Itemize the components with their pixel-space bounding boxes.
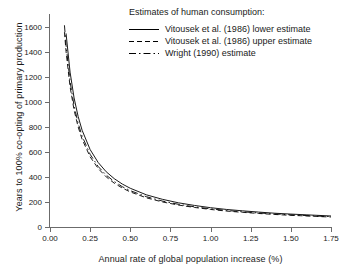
x-tick-label: 1.75 (323, 234, 339, 243)
y-tick-label: 800 (29, 122, 42, 131)
legend-label: Wright (1990) estimate (165, 48, 256, 58)
y-tick-label: 200 (29, 197, 42, 206)
legend-line-swatch (129, 37, 159, 46)
series-line (66, 33, 331, 216)
y-tick-label: 400 (29, 172, 42, 181)
x-axis-line (49, 227, 331, 228)
y-tick-label: 1000 (24, 97, 42, 106)
legend-entry: Wright (1990) estimate (129, 48, 312, 58)
legend-entry: Vitousek et al. (1986) lower estimate (129, 24, 312, 34)
y-tick-label: 1200 (24, 72, 42, 81)
legend-label: Vitousek et al. (1986) lower estimate (165, 24, 310, 34)
x-tick-label: 1.25 (243, 234, 259, 243)
legend: Estimates of human consumption: Vitousek… (129, 7, 312, 60)
legend-title: Estimates of human consumption: (129, 7, 312, 17)
legend-entries: Vitousek et al. (1986) lower estimateVit… (129, 24, 312, 58)
y-tick-label: 0 (38, 223, 42, 232)
x-tick-mark (251, 227, 252, 232)
chart-figure: Years to 100% co-opting of primary produ… (0, 0, 342, 276)
x-tick-label: 0.50 (122, 234, 138, 243)
x-tick-label: 1.00 (203, 234, 219, 243)
x-tick-mark (211, 227, 212, 232)
x-tick-label: 1.50 (283, 234, 299, 243)
y-tick-label: 600 (29, 147, 42, 156)
x-tick-mark (331, 227, 332, 232)
y-tick-label: 1400 (24, 47, 42, 56)
x-tick-mark (170, 227, 171, 232)
x-tick-mark (90, 227, 91, 232)
x-tick-label: 0.75 (163, 234, 179, 243)
x-tick-mark (50, 227, 51, 232)
legend-entry: Vitousek et al. (1986) upper estimate (129, 36, 312, 46)
legend-line-swatch (129, 25, 159, 34)
x-axis-title: Annual rate of global population increas… (50, 254, 331, 264)
x-tick-label: 0.25 (82, 234, 98, 243)
x-tick-label: 0.00 (42, 234, 58, 243)
legend-line-swatch (129, 49, 159, 58)
legend-label: Vitousek et al. (1986) upper estimate (165, 36, 312, 46)
y-tick-label: 1600 (24, 22, 42, 31)
x-tick-mark (291, 227, 292, 232)
y-axis-title: Years to 100% co-opting of primary produ… (14, 2, 24, 232)
x-tick-mark (130, 227, 131, 232)
